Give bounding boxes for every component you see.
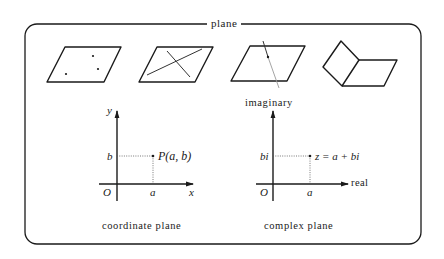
complex-plane-caption: complex plane (264, 221, 333, 232)
y-tick-label: b (107, 151, 113, 162)
y-axis-label: y (107, 105, 112, 116)
a-tick-label: a (307, 187, 313, 198)
point-icon (97, 68, 99, 70)
imaginary-axis-label: imaginary (245, 98, 293, 109)
point-p-icon (152, 155, 155, 158)
point-z-label: z = a + bi (315, 151, 359, 162)
frame-title: plane (207, 18, 241, 29)
bi-tick-label: bi (260, 151, 269, 162)
coordinate-plane-caption: coordinate plane (102, 221, 181, 232)
point-z-icon (309, 155, 312, 158)
plane-diagram: plane y b P(a, b) O a x coordinate plane… (0, 0, 444, 259)
real-axis-label: real (351, 178, 368, 189)
x-tick-label: a (150, 187, 156, 198)
intersection-point-icon (267, 56, 269, 58)
two-intersecting-planes (323, 41, 397, 86)
plane-with-three-points (47, 47, 121, 82)
frame-border (25, 24, 421, 244)
point-icon (92, 55, 94, 57)
point-p-label: P(a, b) (158, 150, 191, 162)
diagram-canvas (0, 0, 444, 259)
origin-label: O (260, 187, 268, 198)
x-axis-label: x (189, 187, 194, 198)
plane-with-two-intersecting-lines (139, 47, 213, 82)
plane-pierced-by-line (231, 41, 305, 88)
point-icon (65, 73, 67, 75)
origin-label: O (103, 187, 111, 198)
